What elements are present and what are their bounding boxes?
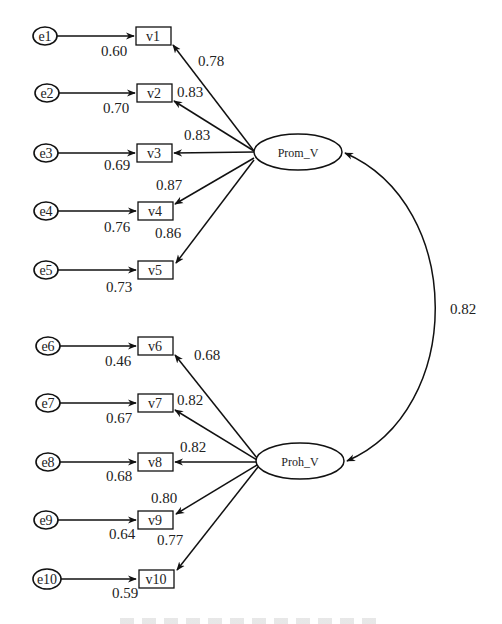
error-term-label: e9 <box>39 513 52 528</box>
loading-value-v9: 0.80 <box>151 490 177 506</box>
observed-variable-label: v4 <box>148 204 162 219</box>
proh-loading-paths <box>175 355 258 570</box>
loading-arrow-v2 <box>174 101 254 151</box>
error-term-label: e2 <box>40 86 53 101</box>
loading-value-v2: 0.83 <box>177 84 203 100</box>
loading-arrow-v10 <box>177 467 258 570</box>
r-squared-value: 0.68 <box>106 468 132 484</box>
prom-loading-paths <box>173 45 254 263</box>
observed-variable-label: v10 <box>146 572 167 587</box>
observed-variable-label: v7 <box>148 396 162 411</box>
loading-value-v3: 0.83 <box>184 127 210 143</box>
indicator-row-3: e3 v3 0.69 <box>34 144 172 173</box>
latent-factor-prom: Prom_V <box>254 134 342 170</box>
indicator-row-9: e9 v9 0.64 <box>34 511 173 542</box>
r-squared-value: 0.60 <box>101 43 127 59</box>
observed-variable-label: v9 <box>148 513 162 528</box>
r-squared-value: 0.73 <box>106 279 132 295</box>
loading-arrow-v9 <box>176 465 257 514</box>
observed-variable-label: v6 <box>148 339 162 354</box>
loading-value-v6: 0.68 <box>194 347 220 363</box>
error-term-label: e4 <box>39 204 52 219</box>
r-squared-value: 0.67 <box>106 410 133 426</box>
r-squared-value: 0.64 <box>109 526 136 542</box>
latent-factor-label: Proh_V <box>281 455 319 469</box>
indicator-row-8: e8 v8 0.68 <box>36 453 173 484</box>
indicator-row-4: e4 v4 0.76 <box>34 202 173 235</box>
r-squared-value: 0.46 <box>105 353 132 369</box>
error-term-label: e1 <box>38 29 51 44</box>
indicator-row-7: e7 v7 0.67 <box>36 394 173 426</box>
observed-variable-label: v8 <box>148 455 162 470</box>
indicator-row-6: e6 v6 0.46 <box>36 337 173 369</box>
indicator-row-10: e10 v10 0.59 <box>33 569 174 601</box>
loading-arrow-v5 <box>176 160 254 263</box>
latent-factor-label: Prom_V <box>278 146 319 160</box>
r-squared-value: 0.59 <box>112 585 138 601</box>
observed-variable-label: v5 <box>148 263 162 278</box>
indicator-row-5: e5 v5 0.73 <box>34 261 173 295</box>
latent-factor-proh: Proh_V <box>256 443 344 479</box>
error-term-label: e10 <box>37 572 57 587</box>
observed-variable-label: v2 <box>147 86 161 101</box>
cropped-caption-fragment <box>120 618 380 624</box>
loading-value-v1: 0.78 <box>198 53 224 69</box>
r-squared-value: 0.76 <box>104 219 131 235</box>
loading-arrow-v4 <box>175 158 254 204</box>
loading-value-v7: 0.82 <box>177 392 203 408</box>
error-term-label: e5 <box>39 263 52 278</box>
loading-value-v4: 0.87 <box>156 177 183 193</box>
error-term-label: e6 <box>41 339 54 354</box>
observed-variable-label: v3 <box>147 146 161 161</box>
error-term-label: e7 <box>41 396 54 411</box>
loading-value-v10: 0.77 <box>157 532 184 548</box>
loading-value-v5: 0.86 <box>155 225 182 241</box>
factor-correlation-value: 0.82 <box>450 301 476 317</box>
indicator-row-2: e2 v2 0.70 <box>35 84 172 116</box>
error-term-label: e3 <box>39 146 52 161</box>
factor-correlation-arrow <box>345 153 435 461</box>
r-squared-value: 0.70 <box>103 100 129 116</box>
cfa-path-diagram: e1 v1 0.60 e2 v2 0.70 e3 v3 0.69 e4 v4 0… <box>0 0 502 624</box>
loading-value-v8: 0.82 <box>180 439 206 455</box>
r-squared-value: 0.69 <box>104 157 130 173</box>
observed-variable-label: v1 <box>146 29 160 44</box>
error-term-label: e8 <box>41 455 54 470</box>
indicator-row-1: e1 v1 0.60 <box>33 27 171 59</box>
loading-arrow-v3 <box>174 152 254 153</box>
